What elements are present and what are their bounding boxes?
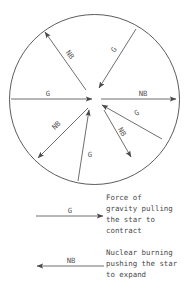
arrow-left-gravity: G [11, 89, 92, 99]
legend-gravity-line-1: Force of [106, 192, 173, 203]
legend-gravity-description: Force of gravity pulling the star to con… [106, 192, 173, 236]
legend-gravity-line-2: gravity pulling [106, 203, 173, 214]
arrow-upper-left-nuclear: NB [45, 32, 86, 90]
arrow-label-right-lower-gravity: G [133, 108, 141, 118]
arrow-label-upper-right-gravity: G [109, 45, 119, 53]
legend-nuclear-arrow: NB [37, 256, 104, 266]
arrow-label-upper-left-nuclear: NB [64, 48, 76, 60]
arrow-upper-right-gravity: G [99, 29, 136, 88]
arrow-label-lower-right-nuclear: NB [116, 126, 128, 138]
arrow-lower-left-nuclear: NB [38, 108, 88, 158]
legend-gravity-arrow: G [36, 206, 103, 216]
legend-nuclear-line-3: to expand [106, 269, 177, 280]
legend-gravity-line-4: contract [106, 225, 173, 236]
legend-nuclear-symbol: NB [67, 256, 76, 265]
arrow-label-left-gravity: G [46, 89, 50, 98]
arrow-bottom-gravity: G [78, 110, 92, 181]
arrow-right-nuclear: NB [101, 89, 176, 99]
legend-gravity-symbol: G [68, 206, 72, 215]
arrow-lower-right-nuclear: NB [104, 110, 131, 157]
legend-nuclear-description: Nuclear burning pushing the star to expa… [106, 247, 177, 280]
legend-gravity-line-3: the star to [106, 214, 173, 225]
legend-nuclear-line-1: Nuclear burning [106, 247, 177, 258]
arrow-label-right-nuclear: NB [139, 89, 148, 98]
star-circle [10, 15, 180, 185]
legend-nuclear-line-2: pushing the star [106, 258, 177, 269]
arrow-label-bottom-gravity: G [88, 150, 92, 159]
arrow-label-lower-left-nuclear: NB [50, 119, 62, 131]
